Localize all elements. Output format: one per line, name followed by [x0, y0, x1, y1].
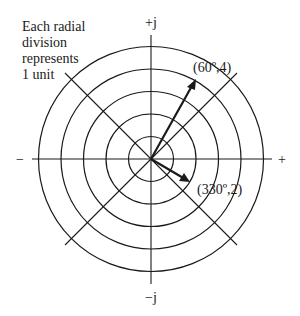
- vector-330deg-2: (330º,2): [151, 159, 243, 198]
- positive-real-label: +: [278, 152, 286, 167]
- negative-imaginary-label: −j: [145, 290, 157, 305]
- vector-label: (60º,4): [193, 60, 232, 76]
- scale-note-line: Each radial: [22, 19, 85, 35]
- positive-imaginary-label: +j: [145, 15, 157, 30]
- vector-label: (330º,2): [197, 182, 243, 198]
- vector-60deg-4: (60º,4): [151, 60, 232, 159]
- arrowhead-icon: [187, 79, 196, 90]
- scale-note-line: 1 unit: [22, 67, 85, 83]
- scale-note-line: division: [22, 35, 85, 51]
- scale-note-line: represents: [22, 51, 85, 67]
- negative-real-label: −: [16, 152, 24, 167]
- scale-note: Each radial division represents 1 unit: [22, 19, 85, 83]
